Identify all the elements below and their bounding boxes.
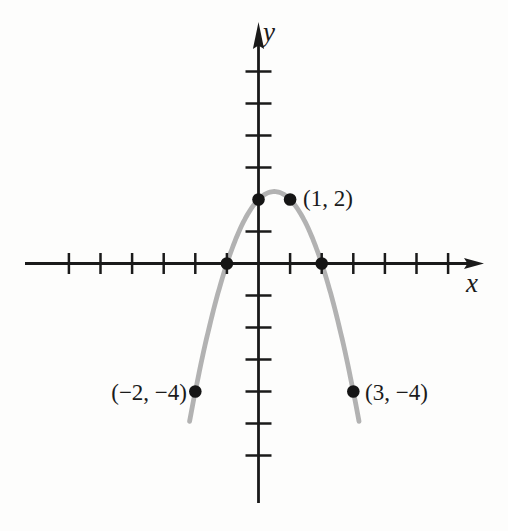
graph-figure: y x (1, 2) (−2, −4) (3, −4): [0, 0, 508, 531]
point-dot: [347, 385, 360, 398]
point-label-3-neg4: (3, −4): [365, 380, 428, 406]
point-dot: [252, 193, 265, 206]
parabola-plot: [0, 0, 508, 531]
parabola-curve: [190, 192, 359, 422]
point-dot: [315, 257, 328, 270]
point-label-neg2-neg4: (−2, −4): [111, 380, 187, 406]
point-dot: [221, 257, 234, 270]
y-axis-label: y: [263, 17, 275, 48]
x-axis-label: x: [466, 268, 478, 299]
point-label-1-2: (1, 2): [303, 186, 353, 212]
marked-points: [189, 193, 360, 398]
point-dot: [284, 193, 297, 206]
point-dot: [189, 385, 202, 398]
